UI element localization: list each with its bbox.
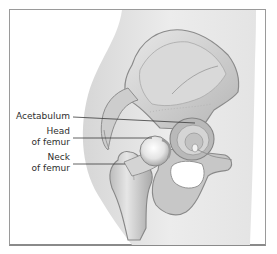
label-acetabulum: Acetabulum [16,111,70,122]
label-head-line2: of femur [32,137,70,148]
label-head-of-femur: Head of femur [32,126,70,148]
label-head-line1: Head [32,126,70,137]
label-neck-line1: Neck [32,152,70,163]
label-neck-of-femur: Neck of femur [32,152,70,174]
label-acetabulum-text: Acetabulum [16,111,70,121]
label-neck-line2: of femur [32,163,70,174]
